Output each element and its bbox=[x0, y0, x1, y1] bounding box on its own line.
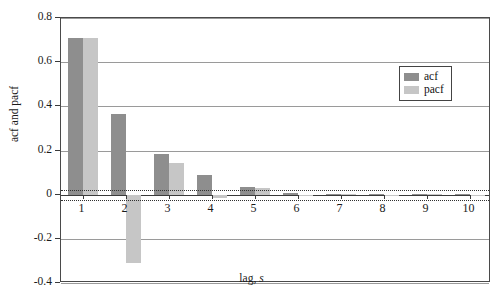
x-tick-label: 9 bbox=[423, 202, 429, 214]
y-tick-label: -0.2 bbox=[34, 232, 52, 244]
legend-item-pacf: pacf bbox=[404, 84, 444, 96]
bar-pacf-lag-5 bbox=[255, 188, 270, 195]
y-tick-label: 0 bbox=[46, 188, 52, 200]
plot-area bbox=[60, 17, 490, 282]
x-tick-label: 10 bbox=[463, 202, 475, 214]
bar-acf-lag-3 bbox=[154, 154, 169, 195]
legend-swatch-acf bbox=[404, 73, 419, 81]
gridline bbox=[61, 106, 489, 107]
x-tick-mark bbox=[470, 195, 471, 199]
legend: acfpacf bbox=[399, 66, 452, 101]
bar-pacf-lag-7 bbox=[341, 194, 356, 195]
x-tick-label: 1 bbox=[79, 202, 85, 214]
legend-label-pacf: pacf bbox=[424, 84, 444, 96]
x-tick-mark bbox=[126, 195, 127, 199]
bar-acf-lag-7 bbox=[326, 194, 341, 195]
bar-acf-lag-10 bbox=[455, 194, 470, 195]
x-tick-mark bbox=[427, 195, 428, 199]
bar-pacf-lag-9 bbox=[427, 194, 442, 195]
gridline bbox=[61, 18, 489, 19]
y-tick-label: 0.2 bbox=[38, 144, 52, 156]
x-tick-mark bbox=[169, 195, 170, 199]
bar-pacf-lag-2 bbox=[126, 195, 141, 263]
y-tick-label: 0.8 bbox=[38, 11, 52, 23]
x-axis-title: lag, s bbox=[0, 272, 503, 284]
x-axis-title-text: lag, bbox=[239, 272, 256, 284]
bar-pacf-lag-10 bbox=[470, 195, 485, 196]
bar-acf-lag-4 bbox=[197, 175, 212, 195]
bar-acf-lag-8 bbox=[369, 194, 384, 195]
x-tick-label: 4 bbox=[208, 202, 214, 214]
bar-pacf-lag-4 bbox=[212, 195, 227, 198]
bar-acf-lag-2 bbox=[111, 114, 126, 195]
legend-item-acf: acf bbox=[404, 71, 444, 83]
x-tick-label: 5 bbox=[251, 202, 257, 214]
x-tick-mark bbox=[341, 195, 342, 199]
x-tick-mark bbox=[212, 195, 213, 199]
x-tick-mark bbox=[384, 195, 385, 199]
bar-pacf-lag-8 bbox=[384, 195, 399, 196]
legend-label-acf: acf bbox=[424, 71, 438, 83]
bar-acf-lag-9 bbox=[412, 194, 427, 195]
bar-acf-lag-6 bbox=[283, 193, 298, 195]
y-axis: acf and pacf 0.80.60.40.20-0.2-0.4 bbox=[0, 0, 60, 300]
x-tick-label: 6 bbox=[294, 202, 300, 214]
x-tick-label: 2 bbox=[122, 202, 128, 214]
x-tick-mark bbox=[83, 195, 84, 199]
y-tick-label: 0.6 bbox=[38, 55, 52, 67]
confidence-band-line bbox=[61, 190, 489, 191]
x-tick-mark bbox=[298, 195, 299, 199]
y-axis-title: acf and pacf bbox=[8, 64, 20, 164]
y-tick-label: 0.4 bbox=[38, 100, 52, 112]
legend-swatch-pacf bbox=[404, 86, 419, 94]
x-tick-mark bbox=[255, 195, 256, 199]
bar-acf-lag-1 bbox=[68, 38, 83, 195]
x-tick-label: 7 bbox=[337, 202, 343, 214]
x-tick-label: 8 bbox=[380, 202, 386, 214]
bar-pacf-lag-1 bbox=[83, 38, 98, 195]
gridline bbox=[61, 62, 489, 63]
x-tick-label: 3 bbox=[165, 202, 171, 214]
x-axis-title-variable: s bbox=[259, 272, 263, 284]
chart-root: acf and pacf 0.80.60.40.20-0.2-0.4 12345… bbox=[0, 0, 503, 300]
bar-pacf-lag-6 bbox=[298, 195, 313, 196]
